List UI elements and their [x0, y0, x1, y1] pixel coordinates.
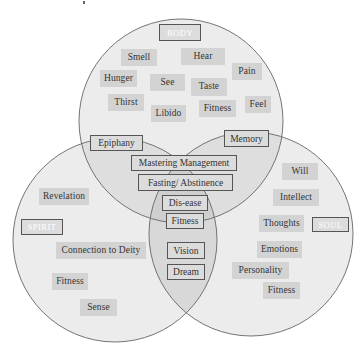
body-soul-item-memory: Memory	[224, 130, 269, 147]
soul-item-intellect: Intellect	[273, 189, 319, 206]
body-label: BODY	[159, 24, 201, 41]
soul-item-fitness: Fitness	[263, 282, 300, 299]
spirit-item-revelation: Revelation	[39, 188, 89, 205]
body-item-fitness: Fitness	[199, 100, 236, 117]
body-item-smell: Smell	[121, 49, 157, 66]
center-item-dis-ease: Dis-ease	[162, 195, 208, 211]
soul-item-emotions: Emotions	[257, 241, 302, 258]
spirit-soul-item-vision: Vision	[167, 242, 205, 259]
center-item-fasting-abstinence: Fasting/ Abstinence	[138, 174, 233, 191]
body-item-taste: Taste	[191, 78, 227, 96]
body-spirit-item-epiphany: Epiphany	[90, 135, 143, 151]
body-item-feel: Feel	[245, 96, 271, 113]
spirit-item-connection-to-deity: Connection to Deity	[56, 242, 146, 259]
soul-item-will: Will	[282, 163, 318, 180]
body-item-hear: Hear	[181, 48, 225, 65]
body-item-see: See	[150, 74, 185, 91]
spirit-label: SPIRIT	[21, 219, 63, 235]
body-item-thirst: Thirst	[108, 94, 144, 111]
spirit-item-sense: Sense	[80, 299, 117, 316]
spirit-soul-item-dream: Dream	[167, 264, 205, 280]
venn-diagram: BODY SPIRIT SOUL Smell Hear Hunger See P…	[0, 0, 364, 356]
body-item-hunger: Hunger	[100, 70, 137, 87]
center-item-fitness: Fitness	[166, 213, 204, 229]
body-item-pain: Pain	[232, 63, 262, 80]
center-item-mastering-management: Mastering Management	[131, 155, 237, 171]
body-item-libido: Libido	[151, 105, 186, 122]
spirit-item-fitness: Fitness	[52, 273, 88, 290]
soul-item-personality: Personality	[232, 262, 289, 279]
soul-label: SOUL	[312, 217, 349, 232]
soul-item-thoughts: Thoughts	[259, 215, 304, 232]
